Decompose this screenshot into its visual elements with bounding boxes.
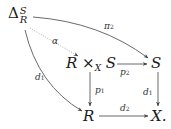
label-p1: p1 [95, 86, 105, 95]
label-p2: p2 [120, 68, 130, 77]
node-r: R [83, 109, 94, 124]
arrow-pi2 [33, 17, 148, 58]
node-s: S [151, 56, 161, 71]
label-d1-right: d1 [143, 88, 153, 97]
label-alpha: α [52, 37, 58, 46]
label-d1-left: d1 [35, 73, 45, 82]
node-x: X. [151, 109, 166, 124]
label-pi2: π2 [104, 22, 114, 31]
node-delta: ΔSR [8, 6, 27, 24]
node-fiber-product: R ×X S [66, 56, 116, 71]
delta-sub: R [20, 15, 28, 24]
label-d2: d2 [120, 104, 130, 113]
